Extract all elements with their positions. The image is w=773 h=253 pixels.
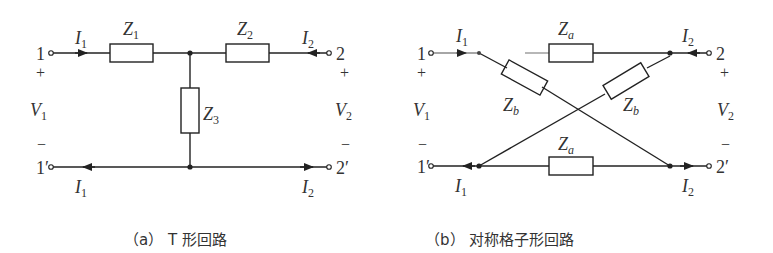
terminal-2 bbox=[327, 51, 332, 56]
voltage-v1: V1 bbox=[30, 100, 47, 123]
terminal-1 bbox=[49, 51, 54, 56]
minus-sign-right: − bbox=[341, 136, 350, 153]
t-network bbox=[53, 44, 327, 167]
current-i1-top: I1 bbox=[455, 26, 468, 49]
label-z3: Z3 bbox=[203, 104, 219, 127]
terminal-1prime bbox=[49, 165, 54, 170]
caption-b: （b） 对称格子形回路 bbox=[425, 228, 574, 249]
current-i1-top: I1 bbox=[74, 28, 87, 51]
impedance-z2 bbox=[226, 44, 269, 62]
current-i2-top: I2 bbox=[681, 26, 694, 49]
minus-sign-right: − bbox=[721, 136, 730, 153]
minus-sign-left: − bbox=[37, 136, 46, 153]
plus-sign-left: + bbox=[36, 64, 45, 81]
impedance-za-bottom bbox=[549, 157, 593, 175]
plus-sign-right: + bbox=[720, 64, 729, 81]
impedance-zb-left bbox=[501, 60, 547, 95]
terminal-1 bbox=[429, 51, 434, 56]
terminal-label-2: 2 bbox=[716, 44, 725, 64]
terminal-label-1: 1 bbox=[417, 44, 426, 64]
terminal-label-2: 2 bbox=[336, 44, 345, 64]
current-i2-top: I2 bbox=[301, 28, 314, 51]
voltage-v2: V2 bbox=[717, 100, 734, 123]
caption-a: （a） T 形回路 bbox=[124, 228, 227, 249]
current-i2-bottom: I2 bbox=[681, 176, 694, 199]
impedance-z1 bbox=[110, 44, 153, 62]
voltage-v1: V1 bbox=[413, 100, 430, 123]
current-i1-bottom: I1 bbox=[454, 176, 467, 199]
terminal-label-2prime: 2′ bbox=[716, 157, 729, 177]
terminal-label-2prime: 2′ bbox=[336, 158, 349, 178]
impedance-z3 bbox=[181, 88, 199, 133]
plus-sign-right: + bbox=[340, 64, 349, 81]
current-i1-bottom: I1 bbox=[74, 177, 87, 200]
label-zb-right: Zb bbox=[623, 95, 639, 118]
plus-sign-left: + bbox=[417, 64, 426, 81]
label-za-bottom: Za bbox=[558, 134, 574, 157]
impedance-zb-right bbox=[603, 63, 649, 99]
voltage-v2: V2 bbox=[335, 100, 352, 123]
terminal-label-1: 1 bbox=[36, 44, 45, 64]
label-z1: Z1 bbox=[123, 19, 139, 42]
terminal-2prime bbox=[707, 164, 712, 169]
impedance-za-top bbox=[549, 44, 593, 62]
label-za-top: Za bbox=[558, 19, 574, 42]
terminal-label-1prime: 1′ bbox=[36, 158, 49, 178]
terminal-2prime bbox=[327, 165, 332, 170]
circuit-diagrams: 1 1′ 2 2′ + + − − V1 V2 I1 I2 I1 I2 Z1 Z… bbox=[0, 0, 773, 253]
label-z2: Z2 bbox=[237, 19, 253, 42]
terminal-2 bbox=[707, 51, 712, 56]
label-zb-left: Zb bbox=[503, 95, 519, 118]
terminal-label-1prime: 1′ bbox=[417, 157, 430, 177]
current-i2-bottom: I2 bbox=[301, 177, 314, 200]
minus-sign-left: − bbox=[418, 136, 427, 153]
